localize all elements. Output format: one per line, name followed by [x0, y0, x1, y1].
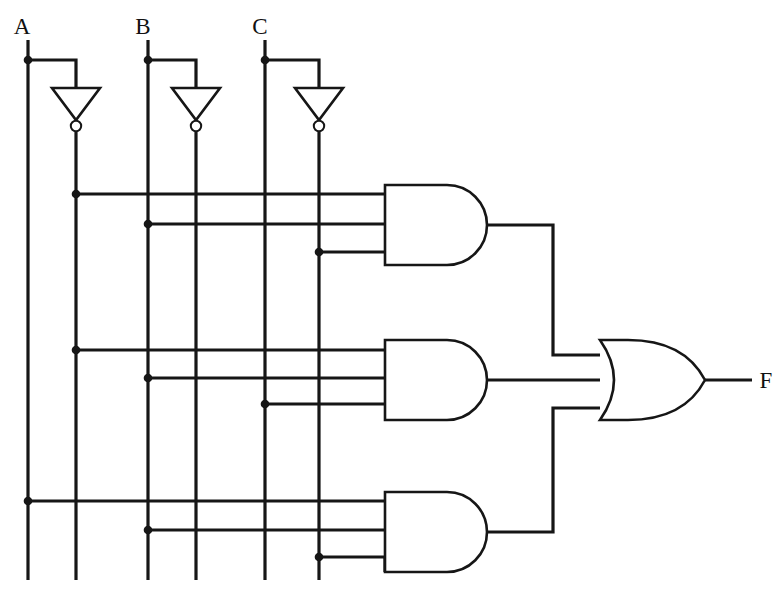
logic-circuit-diagram: A B C [0, 0, 780, 600]
inverter-a-triangle [52, 88, 100, 120]
tap-a-to-inverter [28, 60, 76, 88]
junction-and3-in1 [24, 497, 33, 506]
inverter-a-bubble-icon [71, 121, 81, 131]
tap-c-to-inverter [265, 60, 319, 88]
inverter-c-triangle [295, 88, 343, 120]
inverter-b-triangle [172, 88, 220, 120]
junction-and2-in1 [72, 346, 81, 355]
and-gate-3 [385, 492, 487, 572]
inverter-c-bubble-icon [314, 121, 324, 131]
wire-and3-in3 [319, 557, 385, 572]
junction-and3-in3 [315, 553, 324, 562]
input-label-b: B [135, 14, 150, 39]
and-gate-1 [385, 185, 487, 265]
junction-and1-in2 [144, 220, 153, 229]
wire-and3-out-to-or [487, 408, 600, 532]
and-gate-2 [385, 340, 487, 420]
or-gate-1 [600, 340, 705, 420]
output-label-f: F [760, 368, 773, 393]
wire-and1-out-to-or [487, 225, 600, 355]
input-label-c: C [252, 14, 267, 39]
circuit-canvas: A B C [0, 0, 780, 600]
junction-and1-in3 [315, 248, 324, 257]
junction-and2-in3 [261, 400, 270, 409]
junction-and2-in2 [144, 374, 153, 383]
junction-and1-in1 [72, 190, 81, 199]
input-label-a: A [14, 14, 31, 39]
inverter-b-bubble-icon [191, 121, 201, 131]
junction-and3-in2 [144, 526, 153, 535]
tap-b-to-inverter [148, 60, 196, 88]
